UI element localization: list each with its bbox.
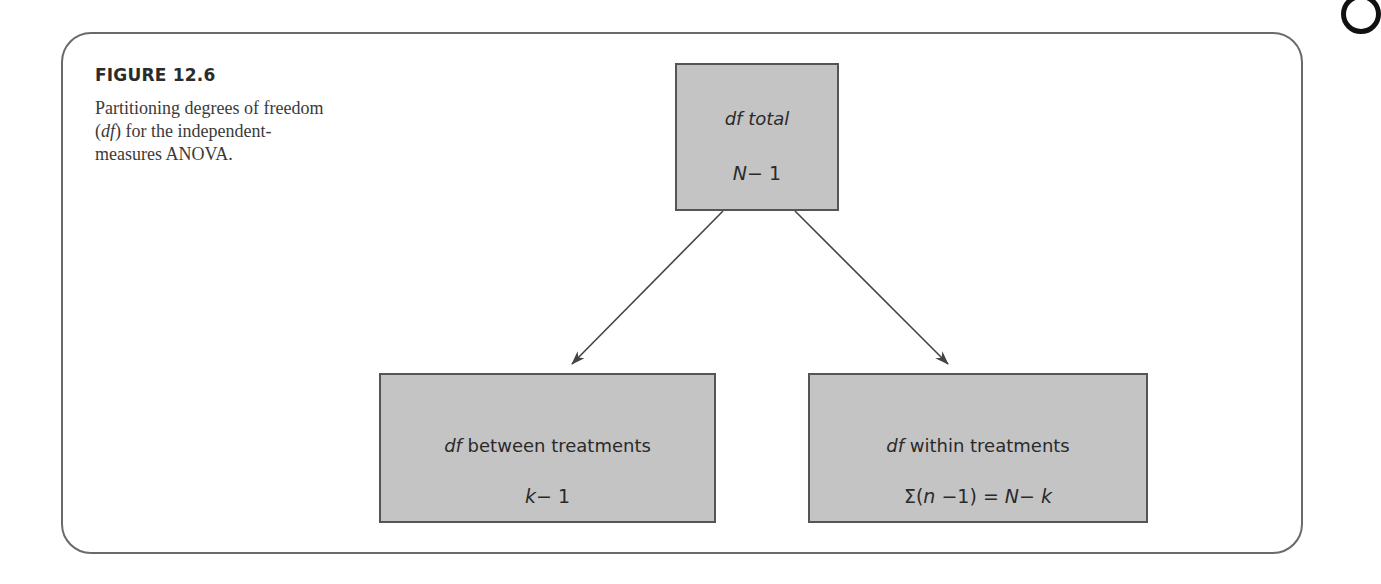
formula-mid: −1) =: [935, 485, 1004, 507]
df-between-title: df between treatments: [381, 435, 714, 456]
sigma-open: Σ(: [904, 485, 923, 507]
df-italic: df: [444, 435, 462, 456]
arrow-to-between: [572, 211, 723, 364]
df-total-title: df total: [677, 108, 837, 129]
var-N: N: [733, 162, 747, 184]
df-within-formula: Σ(n −1) = N− k: [810, 485, 1146, 507]
df-between-formula: k− 1: [381, 485, 714, 507]
df-total-formula: N− 1: [677, 162, 837, 184]
title-rest: total: [742, 108, 789, 129]
df-italic: df: [725, 108, 743, 129]
var-N: N: [1005, 485, 1019, 507]
title-rest: within treatments: [904, 435, 1070, 456]
df-italic: df: [886, 435, 904, 456]
var-k: k: [525, 485, 536, 507]
var-k: k: [1041, 485, 1052, 507]
df-within-box: df within treatments Σ(n −1) = N− k: [808, 373, 1148, 523]
df-total-box: df total N− 1: [675, 63, 839, 211]
arrow-to-within: [795, 211, 948, 364]
formula-rest: − 1: [747, 162, 781, 184]
df-within-title: df within treatments: [810, 435, 1146, 456]
formula-rest: − 1: [536, 485, 570, 507]
title-rest: between treatments: [462, 435, 651, 456]
minus: −: [1019, 485, 1041, 507]
df-between-box: df between treatments k− 1: [379, 373, 716, 523]
var-n: n: [923, 485, 935, 507]
